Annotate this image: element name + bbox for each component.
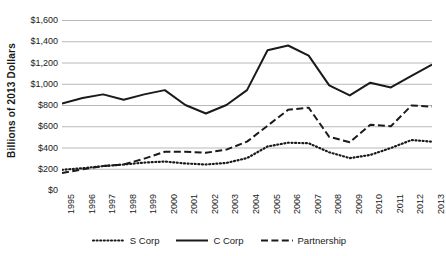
legend-item-partnership[interactable]: Partnership xyxy=(260,235,347,246)
x-tick-label: 2004 xyxy=(251,194,261,214)
x-tick-label: 2007 xyxy=(313,194,323,214)
legend-item-c-corp[interactable]: C Corp xyxy=(175,235,243,246)
x-tick-label: 1999 xyxy=(148,194,158,214)
x-tick-label: 1997 xyxy=(107,194,117,214)
x-tick-label: 2011 xyxy=(395,194,405,213)
x-tick-label: 2006 xyxy=(292,194,302,214)
y-tick-label: $400 xyxy=(18,143,58,153)
x-tick-label: 1998 xyxy=(128,194,138,214)
legend-label: S Corp xyxy=(130,235,160,246)
x-tick-label: 2008 xyxy=(333,194,343,214)
plot-svg xyxy=(62,20,432,190)
legend-swatch-dotted-icon xyxy=(92,235,126,245)
legend-label: C Corp xyxy=(213,235,243,246)
legend-item-s-corp[interactable]: S Corp xyxy=(92,235,160,246)
y-axis-title-label: Billions of 2013 Dollars xyxy=(6,43,17,158)
x-tick-label: 2005 xyxy=(272,194,282,214)
chart-legend: S CorpC CorpPartnership xyxy=(0,230,438,250)
x-tick-label: 2009 xyxy=(354,194,364,214)
legend-swatch-dashed-icon xyxy=(260,235,294,245)
x-tick-label: 2000 xyxy=(169,194,179,214)
x-tick-label: 2013 xyxy=(436,194,446,214)
x-tick-label: 1996 xyxy=(87,194,97,214)
y-tick-label: $800 xyxy=(18,100,58,110)
series-line-partnership xyxy=(62,106,432,173)
y-tick-label: $1,200 xyxy=(18,58,58,68)
y-tick-label: $1,600 xyxy=(18,15,58,25)
y-tick-label: $200 xyxy=(18,164,58,174)
series-line-c-corp xyxy=(62,46,432,114)
x-tick-label: 2001 xyxy=(189,194,199,214)
x-tick-label: 1995 xyxy=(66,194,76,214)
y-tick-label: $1,000 xyxy=(18,79,58,89)
legend-swatch-solid-icon xyxy=(175,235,209,245)
y-tick-label: $600 xyxy=(18,121,58,131)
y-axis-tick-labels: $0$200$400$600$800$1,000$1,200$1,400$1,6… xyxy=(18,20,58,190)
plot-area xyxy=(62,20,432,190)
legend-label: Partnership xyxy=(298,235,347,246)
y-tick-label: $1,400 xyxy=(18,36,58,46)
x-tick-label: 2010 xyxy=(374,194,384,214)
series-lines xyxy=(62,46,432,174)
x-tick-label: 2003 xyxy=(230,194,240,214)
x-tick-label: 2012 xyxy=(415,194,425,214)
y-tick-label: $0 xyxy=(18,185,58,195)
x-tick-label: 2002 xyxy=(210,194,220,214)
x-axis-tick-labels: 1995199619971998199920002001200220032004… xyxy=(62,192,432,226)
